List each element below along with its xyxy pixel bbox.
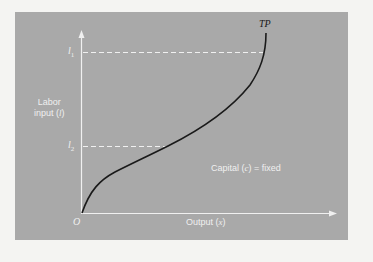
y-axis-label-text: input ( xyxy=(34,108,59,118)
y-axis-label: Labor input (l) xyxy=(34,97,65,119)
origin-label: O xyxy=(73,216,80,227)
tick-l1-sub: 1 xyxy=(71,51,75,59)
tick-l2-sub: 2 xyxy=(71,145,75,153)
curve-label: TP xyxy=(259,18,271,29)
tick-l1: l1 xyxy=(68,45,74,61)
x-axis-label-text: Output ( xyxy=(186,217,219,227)
y-axis-label-line2: input (l) xyxy=(34,108,65,119)
capital-fixed-annotation: Capital (c) = fixed xyxy=(211,163,281,174)
tp-curve xyxy=(82,33,266,213)
annotation-prefix: Capital ( xyxy=(211,163,245,173)
annotation-suffix: ) = fixed xyxy=(249,163,281,173)
y-axis-arrow-icon xyxy=(79,30,85,38)
tick-l2: l2 xyxy=(68,139,74,155)
y-axis-label-line1: Labor xyxy=(34,97,65,108)
x-axis-label-close: ) xyxy=(223,217,226,227)
x-axis-arrow-icon xyxy=(329,211,337,217)
x-axis-label: Output (x) xyxy=(186,217,226,228)
diagram-frame: TP l1 l2 Labor input (l) O Output (x) Ca… xyxy=(0,0,373,262)
y-axis-label-close: ) xyxy=(62,108,65,118)
